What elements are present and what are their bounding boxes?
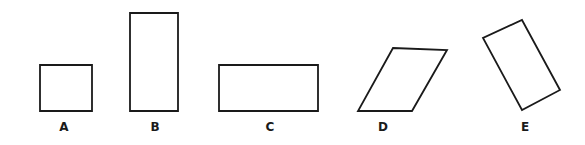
shape-a-square <box>40 65 92 111</box>
shape-a-group: A <box>40 65 92 134</box>
shape-d-parallelogram <box>358 48 447 111</box>
shape-c-label: C <box>266 120 275 134</box>
shape-a-label: A <box>59 120 69 134</box>
shape-d-group: D <box>358 48 447 134</box>
shape-c-group: C <box>219 65 318 134</box>
shape-d-label: D <box>378 120 388 134</box>
shape-e-label: E <box>521 120 529 134</box>
shape-e-rotated-rectangle <box>483 20 560 110</box>
shape-c-wide-rectangle <box>219 65 318 111</box>
shapes-figure: A B C D E <box>0 0 585 145</box>
shape-b-tall-rectangle <box>130 13 178 111</box>
shape-b-label: B <box>150 120 159 134</box>
shape-b-group: B <box>130 13 178 134</box>
shape-e-group: E <box>483 20 560 134</box>
